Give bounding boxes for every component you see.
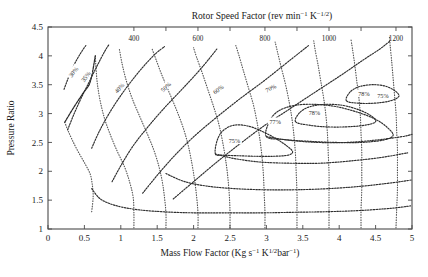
efficiency-60	[143, 45, 309, 193]
top-tick-label: 1000	[322, 35, 337, 43]
efficiency-40	[92, 47, 165, 149]
efficiency-78-left	[295, 104, 376, 127]
contour-labels-group: 30%35%40%50%60%70%75%77%78%78%75%	[66, 64, 391, 145]
axis-label-text: Mass Flow Factor (Kg s−1 K1/2bar−1)	[160, 247, 299, 259]
efficiency-contour-label: 78%	[356, 90, 371, 97]
efficiency-label-text: 78%	[358, 90, 369, 97]
efficiency-contour-label: 70%	[262, 81, 279, 94]
top-tick-label: 400	[129, 35, 140, 43]
y-tick-label: 1	[39, 224, 44, 234]
x-tick-label: 3.5	[297, 233, 309, 243]
x-tick-label: 5	[410, 233, 415, 243]
x-tick-label: 4.5	[370, 233, 382, 243]
efficiency-contours-group	[64, 41, 412, 213]
efficiency-contour-label: 40%	[111, 80, 126, 96]
speed-line-10	[389, 36, 397, 228]
x-tick-label: 0	[46, 233, 51, 243]
low-contour-d	[266, 134, 412, 142]
low-contour-c	[215, 153, 407, 164]
speed-line-8	[314, 41, 329, 228]
y-tick-label: 2.5	[32, 138, 44, 148]
efficiency-label-text: 77%	[269, 118, 280, 125]
low-contour-b	[166, 174, 412, 190]
axis-label-text: Rotor Speed Factor (rev min−1 K−1/2)	[192, 10, 332, 22]
speed-line-6	[236, 45, 265, 227]
speed-line-1	[65, 122, 93, 211]
top-tick-label: 600	[193, 35, 204, 43]
efficiency-label-text: 78%	[309, 109, 320, 116]
efficiency-contour-label: 50%	[158, 79, 174, 94]
speed-line-2	[95, 56, 134, 228]
x-tick-label: 0.5	[79, 233, 91, 243]
efficiency-78-right	[346, 85, 399, 104]
speed-line-5	[194, 48, 230, 228]
top-tick-label: 800	[260, 35, 271, 43]
efficiency-label-text: 75%	[377, 92, 388, 99]
plot-frame	[48, 27, 412, 229]
efficiency-contour-label: 77%	[268, 117, 283, 124]
top-tick-label: 1200	[389, 35, 404, 43]
axis-labels-group: Mass Flow Factor (Kg s−1 K1/2bar−1)Rotor…	[6, 10, 332, 259]
y-tick-label: 1.5	[32, 195, 44, 205]
rotor-speed-lines-group	[65, 36, 398, 228]
x-tick-label: 3	[264, 233, 269, 243]
x-tick-label: 1.5	[152, 233, 164, 243]
efficiency-contour-label: 75%	[227, 137, 242, 144]
efficiency-contour-label: 78%	[307, 108, 322, 115]
y-tick-label: 4	[39, 51, 44, 61]
x-tick-label: 1	[119, 233, 124, 243]
x-tick-label: 4	[337, 233, 342, 243]
efficiency-contour-label: 75%	[375, 92, 390, 99]
compressor-map-figure: 00.511.522.533.544.5511.522.533.544.5400…	[0, 0, 428, 277]
y-tick-label: 3	[39, 109, 44, 119]
y-axis-label: Pressure Ratio	[6, 100, 16, 155]
speed-line-3	[119, 49, 166, 228]
efficiency-75-left	[215, 125, 293, 157]
axis-ticks-group: 00.511.522.533.544.5511.522.533.544.5400…	[32, 22, 415, 243]
y-tick-label: 2	[39, 166, 44, 176]
speed-line-7	[275, 42, 297, 228]
surge-line	[65, 56, 96, 122]
x-tick-label: 2	[191, 233, 196, 243]
x-tick-label: 2.5	[224, 233, 236, 243]
efficiency-label-text: 75%	[229, 137, 240, 144]
efficiency-50	[112, 49, 217, 182]
axes-frame-group	[48, 27, 412, 229]
efficiency-contour-label: 60%	[210, 82, 226, 96]
efficiency-contour-label: 30%	[66, 64, 81, 80]
y-tick-label: 4.5	[32, 22, 44, 32]
compressor-map-plot: 00.511.522.533.544.5511.522.533.544.5400…	[0, 0, 428, 277]
y-tick-label: 3.5	[32, 80, 44, 90]
low-contour-a	[92, 189, 411, 213]
